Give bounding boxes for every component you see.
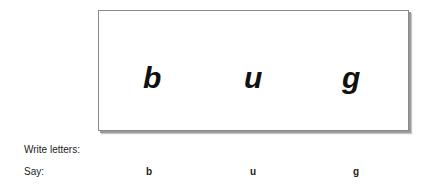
say-letter-3: g (353, 166, 359, 177)
letter-card: b u g (98, 10, 409, 131)
say-letter-1: b (146, 166, 152, 177)
say-label: Say: (24, 166, 44, 177)
write-letters-label: Write letters: (24, 144, 80, 155)
card-letter-1: b (143, 63, 161, 93)
card-letter-2: u (244, 63, 262, 93)
card-letter-3: g (342, 63, 360, 93)
say-letter-2: u (250, 166, 256, 177)
